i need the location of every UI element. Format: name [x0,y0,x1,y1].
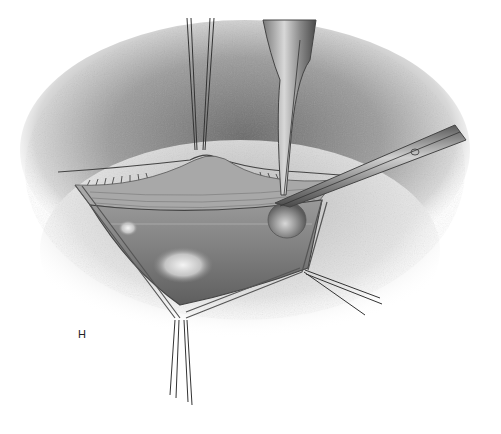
panel-label: H [78,328,86,340]
surgical-illustration [0,0,501,434]
lesion-sphere [268,202,306,238]
tissue-highlight [153,247,213,283]
tissue-highlight-small [118,220,138,236]
